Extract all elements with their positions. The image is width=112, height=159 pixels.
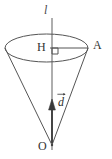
cone-slant-left — [5, 48, 52, 145]
vector-d-arrowhead — [49, 99, 56, 110]
center-label-h: H — [37, 41, 46, 53]
axis-label-l: l — [44, 4, 47, 16]
vector-label-text: d — [58, 95, 64, 109]
cone-diagram-svg — [0, 0, 112, 159]
apex-point-O — [51, 144, 53, 146]
right-angle-marker — [52, 48, 58, 54]
vector-label-d: d — [58, 96, 64, 108]
geometry-figure: l H A O d — [0, 0, 112, 159]
radius-point-label-a: A — [93, 39, 102, 51]
vector-label-wrap: d — [58, 96, 64, 108]
apex-label-o: O — [38, 140, 47, 152]
